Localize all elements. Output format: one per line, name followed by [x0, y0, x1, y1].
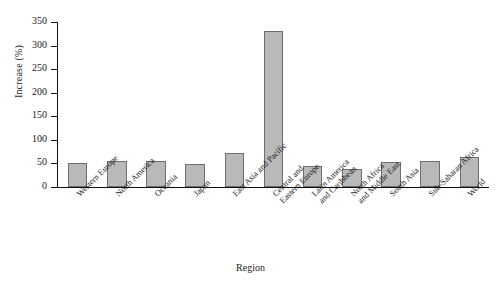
bar-slot [68, 22, 88, 187]
y-axis-tick-label: 300 [32, 39, 47, 50]
y-axis-tick-label: 0 [42, 180, 47, 191]
y-axis-tick-label: 100 [32, 133, 47, 144]
y-axis-tick: 50 [51, 163, 57, 164]
y-axis-tick: 200 [51, 93, 57, 94]
y-axis-tick: 250 [51, 69, 57, 70]
y-axis-tick: 350 [51, 22, 57, 23]
bar-slot [225, 22, 245, 187]
y-axis-title: Increase (%) [13, 27, 24, 117]
y-axis-tick: 0 [51, 187, 57, 188]
y-axis-tick-label: 50 [37, 156, 47, 167]
bar-chart: Increase (%) 050100150200250300350 Weste… [0, 0, 501, 284]
y-axis-tick: 100 [51, 140, 57, 141]
y-axis-tick-label: 350 [32, 15, 47, 26]
bar-slot [185, 22, 205, 187]
y-axis-tick: 150 [51, 116, 57, 117]
y-axis-tick-label: 200 [32, 86, 47, 97]
x-axis-title: Region [0, 262, 501, 273]
y-axis-tick-label: 150 [32, 109, 47, 120]
y-axis-tick-label: 250 [32, 62, 47, 73]
bar-slot [420, 22, 440, 187]
y-axis-tick: 300 [51, 46, 57, 47]
